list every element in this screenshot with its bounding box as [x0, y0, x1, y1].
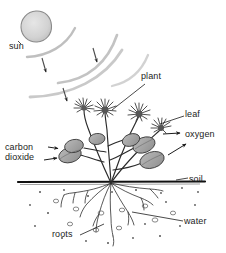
oxygen-arrows	[163, 133, 186, 155]
plant	[57, 98, 171, 183]
label-sun: sun	[9, 41, 24, 51]
label-water: water	[184, 216, 207, 226]
label-carbon-dioxide: carbon dioxide	[5, 142, 34, 162]
label-roots: roots	[52, 229, 73, 239]
label-carbon-line2: dioxide	[5, 152, 34, 162]
label-plant: plant	[141, 71, 161, 81]
label-carbon-line1: carbon	[5, 142, 34, 152]
carbon-dioxide-arrows	[44, 147, 58, 160]
label-oxygen: oxygen	[185, 129, 215, 139]
label-soil: soil	[189, 174, 203, 184]
sun-icon	[21, 11, 52, 42]
sunlight-arrows	[42, 48, 97, 101]
photosynthesis-diagram: sun plant leaf oxygen carbon dioxide soi…	[0, 0, 226, 253]
soil-particles	[53, 199, 175, 232]
flower-head	[74, 98, 171, 133]
label-leaf: leaf	[185, 109, 200, 119]
